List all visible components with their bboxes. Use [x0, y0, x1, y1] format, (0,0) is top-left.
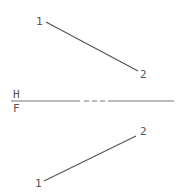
front-view-line — [44, 136, 136, 181]
top-view-point-2-label: 2 — [140, 68, 147, 81]
top-view-line — [46, 22, 138, 71]
front-view-point-1-label: 1 — [35, 177, 42, 190]
plane-label-h: H — [13, 88, 20, 101]
front-view-point-2-label: 2 — [140, 125, 147, 138]
projection-diagram: 1 2 H F 2 1 — [0, 0, 179, 192]
plane-label-f: F — [13, 102, 20, 115]
top-view-point-1-label: 1 — [36, 15, 43, 28]
